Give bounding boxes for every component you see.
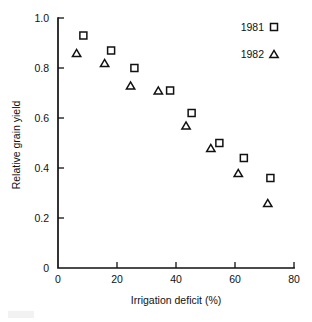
x-axis-title: Irrigation deficit (%) (131, 294, 221, 306)
legend-label-1982: 1982 (241, 48, 265, 60)
y-tick-label: 0.2 (34, 212, 49, 224)
data-point-1981 (80, 32, 87, 39)
y-tick-label: 0.4 (34, 162, 49, 174)
data-point-1981 (108, 47, 115, 54)
y-tick-label: 0 (43, 262, 49, 274)
data-point-1982 (154, 87, 162, 94)
y-tick-label: 0.6 (34, 112, 49, 124)
data-point-1982 (72, 49, 80, 56)
x-tick-label: 60 (229, 273, 241, 285)
data-point-1982 (182, 122, 190, 129)
legend-label-1981: 1981 (241, 21, 265, 33)
x-axis-tick-labels: 020406080 (55, 273, 300, 285)
x-tick-label: 20 (111, 273, 123, 285)
chart-legend: 19811982 (241, 21, 279, 60)
data-point-1981 (131, 65, 138, 72)
data-point-1982 (234, 169, 242, 176)
data-point-1981 (167, 87, 174, 94)
x-tick-label: 0 (55, 273, 61, 285)
x-tick-label: 40 (170, 273, 182, 285)
legend-marker-1982 (270, 50, 278, 57)
caption-artifact (8, 311, 34, 318)
y-axis-tick-labels: 00.20.40.60.81.0 (34, 12, 49, 274)
data-point-1981 (240, 155, 247, 162)
data-point-1981 (267, 175, 274, 182)
data-point-1981 (216, 140, 223, 147)
data-point-1982 (100, 59, 108, 66)
chart-canvas: 00.20.40.60.81.0 020406080 19811982 Irri… (0, 0, 312, 322)
data-point-1981 (188, 110, 195, 117)
legend-marker-1981 (271, 24, 278, 31)
series-1982 (72, 49, 272, 206)
data-point-1982 (207, 144, 215, 151)
y-tick-label: 0.8 (34, 62, 49, 74)
scatter-plot-figure: 00.20.40.60.81.0 020406080 19811982 Irri… (0, 0, 312, 322)
y-tick-label: 1.0 (34, 12, 49, 24)
y-axis-ticks (58, 18, 64, 218)
x-axis-ticks (117, 262, 294, 268)
y-axis-title: Relative grain yield (10, 100, 22, 189)
x-tick-label: 80 (288, 273, 300, 285)
data-point-1982 (264, 199, 272, 206)
data-point-1982 (126, 82, 134, 89)
